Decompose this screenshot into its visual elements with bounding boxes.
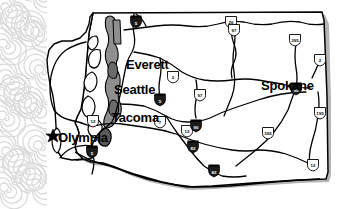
shield-label: 12 bbox=[91, 119, 96, 124]
shield-label: 97 bbox=[232, 28, 237, 33]
shield-label: 395 bbox=[291, 38, 299, 43]
shield-label: 12 bbox=[311, 163, 316, 168]
shield-label: 12 bbox=[185, 129, 190, 134]
shield-us-395-3[interactable]: 395 bbox=[290, 35, 301, 47]
shield-us-97-2[interactable]: 97 bbox=[229, 25, 240, 37]
shield-label: 90 bbox=[194, 125, 199, 130]
shield-us-2-5[interactable]: 2 bbox=[315, 55, 326, 67]
shield-us-2-4[interactable]: 2 bbox=[168, 72, 179, 84]
shield-interstate-5-7[interactable]: 5 bbox=[155, 94, 166, 107]
shield-us-12-9[interactable]: 12 bbox=[88, 116, 99, 128]
shield-interstate-82-18[interactable]: 82 bbox=[209, 165, 220, 178]
shield-label: 82 bbox=[212, 170, 217, 175]
shield-interstate-90-6[interactable]: 90 bbox=[291, 83, 302, 96]
shield-us-395-15[interactable]: 395 bbox=[263, 128, 274, 140]
shield-interstate-5-0[interactable]: 5 bbox=[131, 16, 142, 29]
shield-interstate-82-13[interactable]: 82 bbox=[188, 141, 199, 154]
shield-label: 395 bbox=[264, 131, 272, 136]
shield-label: 90 bbox=[294, 88, 299, 93]
shield-us-12-17[interactable]: 12 bbox=[308, 160, 319, 172]
shield-us-195-16[interactable]: 195 bbox=[315, 108, 326, 120]
shield-us-7-10[interactable]: 7 bbox=[155, 117, 166, 129]
shield-interstate-90-12[interactable]: 90 bbox=[191, 120, 202, 133]
shield-label: 82 bbox=[191, 146, 196, 151]
shield-label: 195 bbox=[316, 111, 324, 116]
shield-us-97-8[interactable]: 97 bbox=[195, 90, 206, 102]
shield-interstate-5-14[interactable]: 5 bbox=[87, 146, 98, 159]
map-graphics-layer[interactable]: 52097395229059712712908253951951282 bbox=[0, 0, 346, 209]
shield-label: 97 bbox=[198, 93, 203, 98]
washington-state-map[interactable]: 52097395229059712712908253951951282 Ever… bbox=[0, 0, 346, 209]
